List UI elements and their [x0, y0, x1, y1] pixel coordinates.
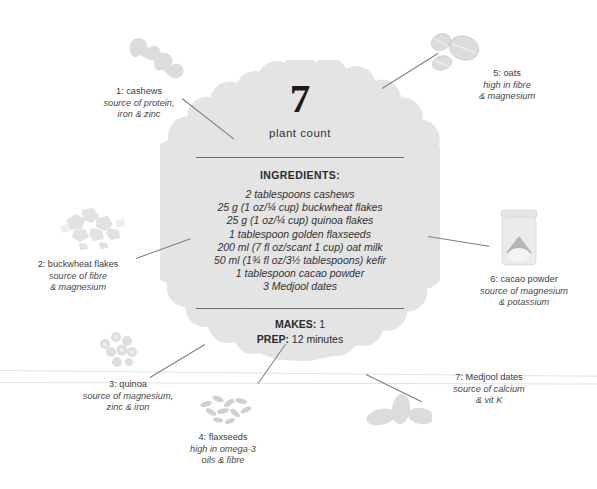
callout-desc-line: zinc & iron — [58, 402, 198, 414]
ingredient-item: 25 g (1 oz/¼ cup) quinoa flakes — [160, 214, 440, 227]
prep-line: PREP: 12 minutes — [160, 333, 440, 345]
ingredient-item: 1 tablespoon cacao powder — [160, 267, 440, 280]
callout-desc-line: high in omega-3 — [150, 444, 296, 456]
callout-quinoa: 3: quinoa source of magnesium, zinc & ir… — [58, 379, 198, 414]
flaxseeds-illustration — [198, 390, 260, 426]
callout-desc-line: & magnesium — [14, 282, 142, 294]
makes-label: MAKES: — [275, 318, 316, 330]
ingredient-item: 1 tablespoon golden flaxseeds — [160, 228, 440, 241]
callout-title: 1: cashews — [78, 86, 200, 98]
callout-desc-line: iron & zinc — [78, 109, 200, 121]
callout-desc-line: source of fibre — [14, 271, 142, 283]
callout-oats: 5: oats high in fibre & magnesium — [448, 68, 566, 103]
callout-desc-line: high in fibre — [448, 80, 566, 92]
callout-desc-line: & potassium — [456, 297, 592, 309]
callout-title: 7: Medjool dates — [414, 372, 564, 384]
quinoa-illustration — [98, 328, 154, 372]
callout-desc-line: source of calcium — [414, 384, 564, 396]
makes-line: MAKES: 1 — [160, 318, 440, 330]
callout-cacao-powder: 6: cacao powder source of magnesium & po… — [456, 274, 592, 309]
ingredients-list: 2 tablespoons cashews 25 g (1 oz/¼ cup) … — [160, 188, 440, 294]
prep-value: 12 minutes — [292, 333, 343, 345]
callout-title: 2: buckwheat flakes — [14, 259, 142, 271]
callout-title: 4: flaxseeds — [150, 432, 296, 444]
plant-count-label: plant count — [160, 127, 440, 139]
callout-title: 5: oats — [448, 68, 566, 80]
callout-buckwheat-flakes: 2: buckwheat flakes source of fibre & ma… — [14, 259, 142, 294]
buckwheat-flakes-illustration — [58, 202, 130, 256]
callout-desc-line: & magnesium — [448, 91, 566, 103]
callout-title: 6: cacao powder — [456, 274, 592, 286]
callout-medjool-dates: 7: Medjool dates source of calcium & vit… — [414, 372, 564, 407]
callout-desc-line: & vit K — [414, 395, 564, 407]
callout-cashews: 1: cashews source of protein, iron & zin… — [78, 86, 200, 121]
cashews-illustration — [124, 28, 190, 80]
cacao-powder-jar-illustration — [496, 208, 542, 268]
ingredients-heading: INGREDIENTS: — [160, 169, 440, 181]
ingredient-item: 200 ml (7 fl oz/scant 1 cup) oat milk — [160, 241, 440, 254]
callout-desc-line: oils & fibre — [150, 455, 296, 467]
callout-desc-line: source of protein, — [78, 98, 200, 110]
ingredient-item: 25 g (1 oz/¼ cup) buckwheat flakes — [160, 201, 440, 214]
callout-desc-line: source of magnesium, — [58, 391, 198, 403]
callout-title: 3: quinoa — [58, 379, 198, 391]
callout-desc-line: source of magnesium — [456, 286, 592, 298]
ingredient-item: 50 ml (1¾ fl oz/3½ tablespoons) kefir — [160, 254, 440, 267]
ingredient-item: 3 Medjool dates — [160, 280, 440, 293]
divider-below-ingredients — [196, 308, 404, 309]
divider-above-ingredients — [196, 157, 404, 158]
ingredient-item: 2 tablespoons cashews — [160, 188, 440, 201]
makes-value: 1 — [319, 318, 325, 330]
callout-flaxseeds: 4: flaxseeds high in omega-3 oils & fibr… — [150, 432, 296, 467]
recipe-page: 7 plant count INGREDIENTS: 2 tablespoons… — [0, 0, 597, 489]
